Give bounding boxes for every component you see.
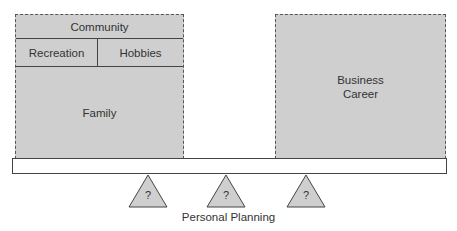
community-section: Community [16, 15, 183, 39]
hobbies-label: Hobbies [119, 46, 161, 60]
business-career-section: Business Career [276, 15, 445, 158]
family-label: Family [83, 106, 117, 120]
diagram-caption: Personal Planning [0, 211, 457, 223]
fulcrum-3-label: ? [286, 189, 326, 201]
balance-plank [12, 158, 447, 174]
fulcrum-1-label: ? [128, 189, 168, 201]
hobbies-section: Hobbies [98, 39, 183, 67]
community-label: Community [70, 20, 128, 34]
recreation-label: Recreation [29, 46, 85, 60]
fulcrum-2-label: ? [206, 189, 246, 201]
family-section: Family [16, 67, 183, 158]
right-career-block: Business Career [275, 14, 446, 159]
left-life-block: Community Recreation Hobbies Family [15, 14, 184, 159]
career-label: Career [343, 87, 378, 101]
business-label: Business [337, 73, 384, 87]
recreation-section: Recreation [16, 39, 98, 67]
